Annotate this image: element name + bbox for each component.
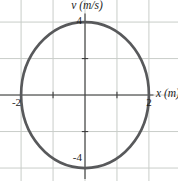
x-axis-tick-label-2: 2: [142, 97, 156, 108]
y-axis-label: v (m/s): [71, 0, 103, 12]
x-axis-label: x (m): [156, 87, 178, 100]
v-axis-tick-label-neg4: -4: [63, 152, 82, 163]
phase-ellipse-chart: [0, 0, 178, 181]
phase-plot-figure: v (m/s) x (m) 4 -4 -2 2: [0, 0, 178, 181]
v-axis-tick-label-4: 4: [69, 15, 82, 26]
x-axis-tick-label-neg2: -2: [7, 97, 26, 108]
